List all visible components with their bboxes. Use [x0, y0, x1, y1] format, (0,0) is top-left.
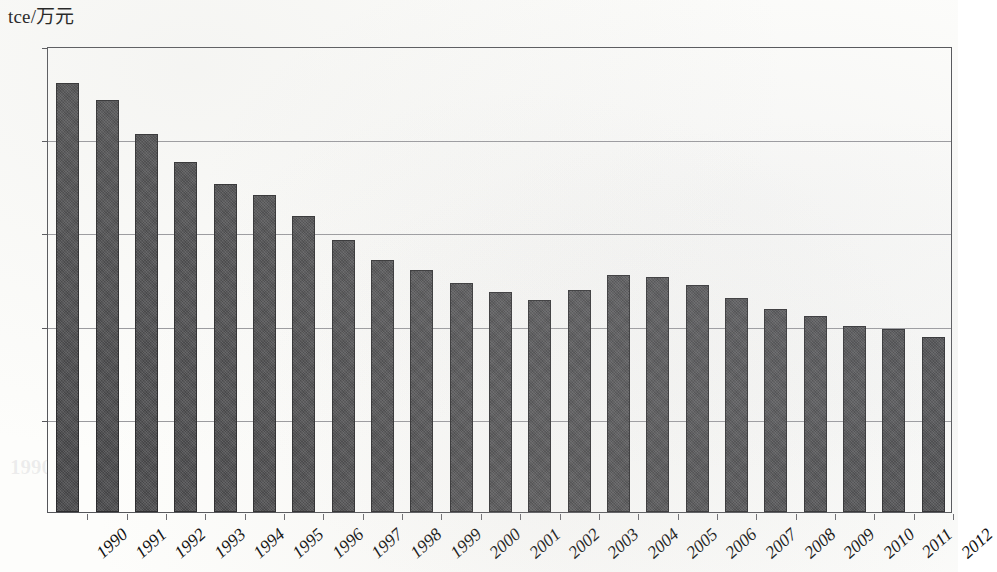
x-axis-tickmark: [245, 514, 246, 520]
x-axis-tick-label: 1994: [249, 524, 289, 563]
x-axis-tick-label: 2009: [839, 524, 879, 563]
x-axis-tickmark: [835, 514, 836, 520]
x-axis-tick-label: 2008: [800, 524, 840, 563]
x-axis-tickmark: [638, 514, 639, 520]
x-axis-tickmark: [441, 514, 442, 520]
bar: [135, 134, 158, 512]
x-axis-tick-label: 1995: [288, 524, 328, 563]
y-axis-tickmark: [42, 48, 48, 49]
x-axis-tickmark: [796, 514, 797, 520]
x-axis-tickmark: [363, 514, 364, 520]
y-axis-tickmark: [42, 234, 48, 235]
x-axis-tick-label: 1996: [328, 524, 368, 563]
x-axis-tickmark: [284, 514, 285, 520]
x-axis-tick-label: 2007: [761, 524, 801, 563]
x-axis-tickmark: [560, 514, 561, 520]
x-axis-tick-label: 1992: [170, 524, 210, 563]
x-axis-tick-label: 2004: [643, 524, 683, 563]
bar: [922, 337, 945, 512]
x-axis-tickmark: [678, 514, 679, 520]
x-axis-tick-label: 2003: [603, 524, 643, 563]
x-axis-tickmark: [481, 514, 482, 520]
x-axis-tick-label: 2010: [879, 524, 919, 563]
y-axis-tickmark: [42, 421, 48, 422]
y-axis-tick-label-text: 1.5: [0, 220, 3, 245]
x-axis-tick-label: 2000: [485, 524, 525, 563]
x-axis-tickmark: [127, 514, 128, 520]
x-axis-tickmark: [205, 514, 206, 520]
bar: [214, 184, 237, 512]
bar: [725, 298, 748, 512]
x-axis-tick-label: 2005: [682, 524, 722, 563]
bar: [174, 162, 197, 512]
bar: [646, 277, 669, 512]
y-axis-tick-label-text: 2.5: [0, 34, 3, 59]
x-axis-tick-label: 1993: [210, 524, 250, 563]
x-axis-tick-label: 1998: [406, 524, 446, 563]
gridline: [48, 141, 951, 142]
bar: [56, 83, 79, 512]
y-axis-tickmark: [42, 141, 48, 142]
y-axis-tick-label-text: 0.5: [0, 407, 3, 432]
bar: [332, 240, 355, 512]
bar: [253, 195, 276, 512]
x-axis-tick-label: 2006: [721, 524, 761, 563]
y-axis-unit-label: tce/万元: [8, 1, 75, 28]
bar: [843, 326, 866, 512]
y-axis-tick-label-text: 0: [0, 500, 3, 525]
bar: [607, 275, 630, 512]
bar: [450, 283, 473, 512]
y-axis-tick-label-text: 2: [0, 127, 3, 152]
x-axis-tickmark: [166, 514, 167, 520]
x-axis-tickmark: [953, 514, 954, 520]
x-axis-tickmark: [599, 514, 600, 520]
x-axis-tick-label: 1997: [367, 524, 407, 563]
x-axis-tickmark: [874, 514, 875, 520]
bar: [489, 292, 512, 512]
x-axis-tick-label: 1991: [131, 524, 171, 563]
bar: [371, 260, 394, 512]
x-axis-tickmark: [323, 514, 324, 520]
x-axis-tickmark: [402, 514, 403, 520]
x-axis-tick-label: 1990: [92, 524, 132, 563]
bar: [410, 270, 433, 512]
x-axis-tickmark: [520, 514, 521, 520]
bar: [804, 316, 827, 512]
bar: [882, 329, 905, 512]
x-axis-tick-label: 2001: [524, 524, 564, 563]
x-axis-tickmark: [87, 514, 88, 520]
x-axis-tick-label: 2011: [918, 524, 957, 562]
bar: [96, 100, 119, 512]
bar: [292, 216, 315, 512]
x-axis-tick-label: 1999: [446, 524, 486, 563]
bar: [686, 285, 709, 512]
bar: [568, 290, 591, 512]
x-axis-tickmark: [914, 514, 915, 520]
plot-area: [47, 47, 952, 513]
bar: [528, 300, 551, 512]
x-axis-tick-label: 2012: [957, 524, 997, 563]
bleedthrough-text: 1990: [10, 455, 52, 480]
x-axis-tickmark: [756, 514, 757, 520]
bar: [764, 309, 787, 512]
y-axis-tickmark: [42, 328, 48, 329]
x-axis-tickmark: [717, 514, 718, 520]
y-axis-tick-label-text: 1: [0, 314, 3, 339]
x-axis-tick-label: 2002: [564, 524, 604, 563]
